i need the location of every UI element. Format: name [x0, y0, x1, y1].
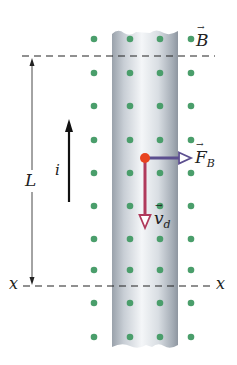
- arrowhead-up-icon: [30, 58, 35, 66]
- field-dot: [127, 203, 134, 210]
- arrowhead-up-icon: [65, 119, 73, 132]
- label-drift-velocity: → vd: [154, 210, 171, 227]
- field-dot: [127, 103, 134, 110]
- field-dot: [91, 203, 98, 210]
- field-dot: [91, 236, 98, 243]
- label-b-field: → B: [196, 32, 209, 49]
- field-dot: [91, 103, 98, 110]
- label-x-right: x: [216, 276, 225, 292]
- field-dot: [188, 170, 195, 177]
- label-x-left: x: [9, 276, 18, 292]
- field-dot: [127, 36, 134, 43]
- field-dot: [157, 170, 164, 177]
- field-dot: [91, 137, 98, 144]
- field-dot: [188, 203, 195, 210]
- field-dot: [127, 236, 134, 243]
- field-dot: [157, 137, 164, 144]
- charge-carrier: [140, 153, 150, 163]
- field-dot: [157, 236, 164, 243]
- field-dot: [127, 334, 134, 341]
- label-length: L: [25, 172, 36, 189]
- field-dot: [157, 300, 164, 307]
- field-dot: [157, 334, 164, 341]
- field-dot: [91, 36, 98, 43]
- field-dot: [188, 334, 195, 341]
- field-dot: [188, 267, 195, 274]
- field-dot: [188, 70, 195, 77]
- label-force: → FB: [195, 149, 215, 166]
- label-current: i: [55, 163, 60, 178]
- field-dot: [127, 267, 134, 274]
- field-dot: [127, 300, 134, 307]
- field-dot: [157, 36, 164, 43]
- field-dot: [91, 334, 98, 341]
- field-dot: [127, 137, 134, 144]
- field-dot: [157, 70, 164, 77]
- field-dot: [188, 137, 195, 144]
- field-dot: [157, 267, 164, 274]
- field-dot: [188, 300, 195, 307]
- field-dot: [91, 300, 98, 307]
- field-dot: [157, 103, 164, 110]
- current-arrow: [65, 119, 73, 202]
- field-dot: [127, 170, 134, 177]
- arrowhead-down-icon: [30, 277, 35, 285]
- hollow-arrowhead-right-icon: [179, 153, 191, 164]
- field-dot: [188, 236, 195, 243]
- field-dot: [91, 170, 98, 177]
- field-dot: [91, 267, 98, 274]
- field-dot: [188, 103, 195, 110]
- field-dot: [91, 70, 98, 77]
- field-dot: [188, 36, 195, 43]
- field-dot: [127, 70, 134, 77]
